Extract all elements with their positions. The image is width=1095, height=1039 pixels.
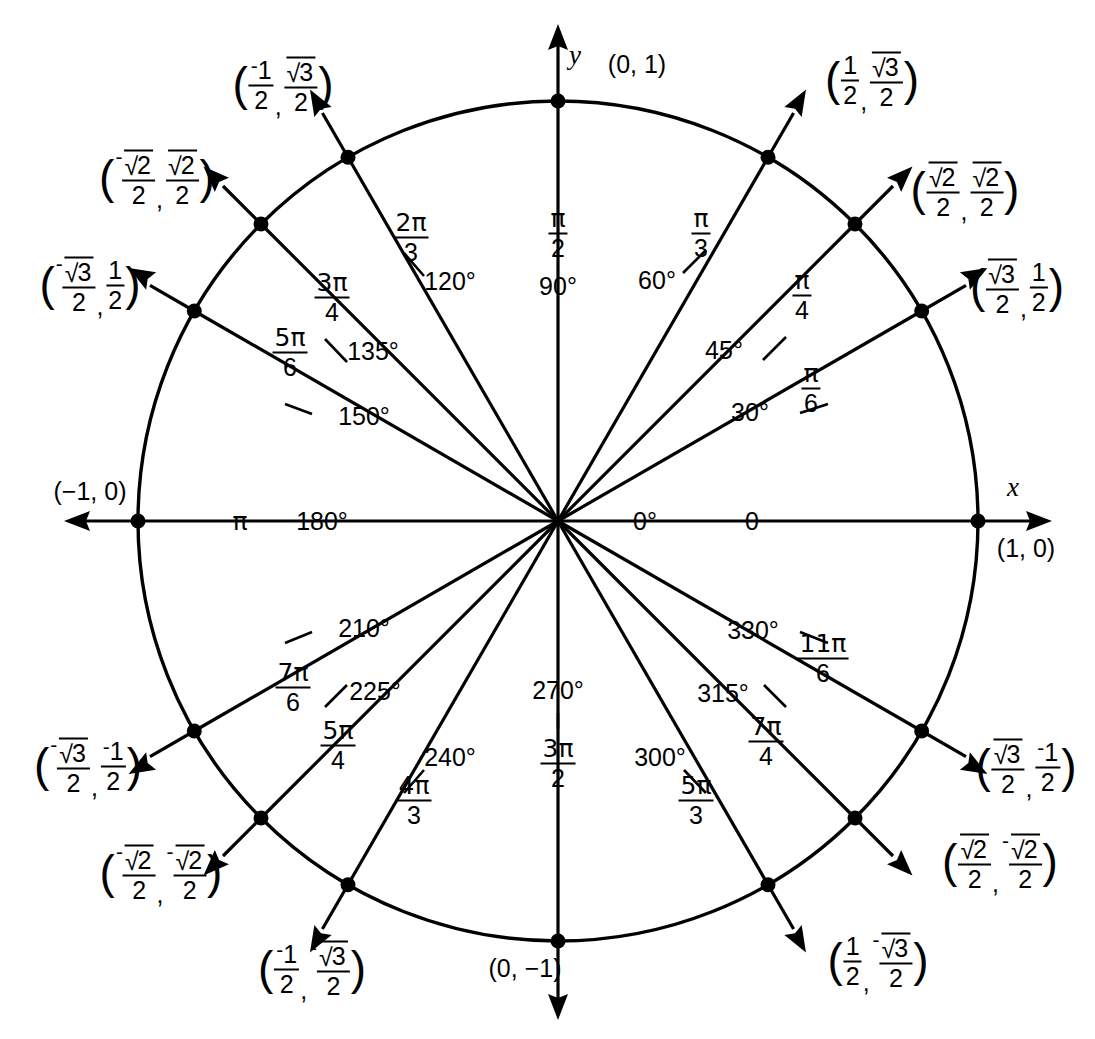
coord-label-225: ( -22 , -22 )	[99, 844, 224, 903]
point-315	[848, 811, 863, 826]
coord-label-240: ( -12 , -32 )	[257, 940, 367, 999]
ray-shaft-315	[855, 818, 893, 856]
leader-45	[763, 337, 786, 360]
point-240	[341, 877, 356, 892]
radian-label-120: 2π3	[394, 210, 429, 265]
leader-135	[325, 339, 347, 362]
coord-label-90: (0, 1)	[608, 52, 666, 77]
ray-shaft-330	[922, 731, 966, 757]
ray-shaft-45	[855, 186, 893, 224]
degree-label-45: 45°	[705, 338, 743, 363]
degree-label-60: 60°	[638, 268, 676, 293]
degree-label-180: 180°	[296, 509, 348, 534]
radian-label-180: π	[232, 509, 247, 534]
coord-label-0: (1, 0)	[997, 536, 1055, 561]
point-180	[131, 514, 146, 529]
ray-shaft-120	[322, 113, 348, 157]
arrowhead-300	[784, 925, 814, 958]
arrowhead-60	[784, 85, 814, 118]
point-0	[971, 514, 986, 529]
coord-label-45: ( 22 , 22 )	[910, 161, 1021, 220]
coord-label-120: ( -12 , 32 )	[231, 56, 334, 115]
degree-label-150: 150°	[338, 404, 390, 429]
radian-label-60: π3	[691, 206, 710, 261]
degree-label-210: 210°	[338, 616, 390, 641]
point-210	[187, 724, 202, 739]
coord-label-60: ( 12 , 32 )	[824, 51, 920, 110]
point-60	[761, 150, 776, 165]
point-225	[254, 811, 269, 826]
point-330	[914, 724, 929, 739]
radian-label-270: 3π2	[541, 736, 576, 791]
degree-label-90: 90°	[539, 274, 577, 299]
radian-label-135: 3π4	[315, 270, 350, 325]
leader-150	[285, 404, 312, 414]
point-270	[551, 934, 566, 949]
point-300	[761, 877, 776, 892]
degree-label-330: 330°	[727, 618, 779, 643]
coord-label-270: (0, −1)	[489, 956, 562, 981]
unit-circle-diagram: 0° 30° 45° 60° 90° 120° 135° 150° 180° 2…	[0, 0, 1095, 1039]
coord-label-150: ( -32 , 12 )	[38, 256, 141, 315]
leader-315	[764, 685, 786, 707]
coord-label-180: (−1, 0)	[54, 479, 127, 504]
radian-label-315: 7π4	[749, 714, 784, 769]
x-axis-label: x	[1007, 474, 1019, 501]
radian-label-45: π4	[792, 268, 811, 323]
axis-zero-radians: 0	[745, 509, 759, 534]
radian-label-330: 11π6	[798, 631, 849, 686]
degree-label-240: 240°	[424, 745, 476, 770]
ray-shaft-150	[150, 285, 194, 311]
point-30	[914, 304, 929, 319]
radian-label-240: 4π3	[397, 773, 432, 828]
leader-225	[325, 685, 347, 707]
ray-shaft-225	[223, 818, 261, 856]
coord-label-135: ( -22 , 22 )	[98, 149, 216, 208]
radian-label-210: 7π6	[276, 660, 311, 715]
ray-shaft-135	[223, 186, 261, 224]
coord-label-210: ( -32 , -12 )	[33, 737, 143, 796]
ray-shaft-60	[768, 113, 794, 157]
ray-shaft-30	[922, 285, 966, 311]
degree-label-300: 300°	[634, 745, 686, 770]
degree-label-0: 0°	[633, 509, 657, 534]
radian-label-90: π2	[548, 206, 567, 261]
point-120	[341, 150, 356, 165]
y-axis-label: y	[569, 42, 581, 69]
degree-label-270: 270°	[532, 678, 584, 703]
coord-label-300: ( 12 , -32 )	[826, 932, 929, 991]
radian-label-30: π6	[801, 361, 820, 416]
point-135	[254, 217, 269, 232]
ray-shaft-300	[768, 885, 794, 929]
degree-label-120: 120°	[424, 269, 476, 294]
degree-label-30: 30°	[731, 400, 769, 425]
coord-label-315: ( 22 , -22 )	[941, 833, 1059, 892]
radian-label-300: 5π3	[679, 773, 714, 828]
ray-shaft-210	[150, 731, 194, 757]
radian-label-150: 5π6	[273, 325, 308, 380]
leader-210	[285, 632, 312, 643]
coord-label-30: ( 32 , 12 )	[969, 258, 1065, 317]
point-150	[187, 304, 202, 319]
point-45	[848, 217, 863, 232]
degree-label-135: 135°	[347, 339, 399, 364]
degree-label-315: 315°	[697, 681, 749, 706]
coord-label-330: ( 32 , -12 )	[974, 738, 1077, 797]
point-90	[551, 94, 566, 109]
degree-label-225: 225°	[349, 679, 401, 704]
radian-label-225: 5π4	[321, 718, 356, 773]
ray-shaft-240	[322, 885, 348, 929]
